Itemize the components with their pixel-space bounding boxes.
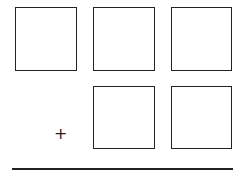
bottom-digit-box-2[interactable]: [171, 86, 232, 149]
sum-line: [12, 168, 233, 170]
top-digit-box-3[interactable]: [171, 7, 232, 71]
bottom-digit-box-1[interactable]: [93, 86, 155, 149]
plus-sign: +: [54, 126, 67, 142]
top-digit-box-2[interactable]: [93, 7, 155, 71]
top-digit-box-1[interactable]: [15, 7, 77, 71]
